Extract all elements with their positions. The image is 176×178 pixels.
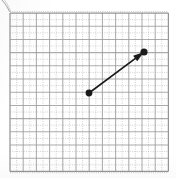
vector-arrow [0,0,176,178]
graph-paper-figure [0,0,176,178]
